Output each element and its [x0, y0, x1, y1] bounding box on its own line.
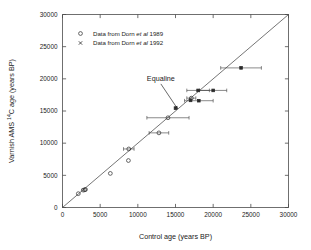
x-tick-label: 25000: [242, 211, 260, 218]
data-point-filled: [198, 99, 201, 102]
data-point-filled: [197, 89, 200, 92]
legend-marker-open-circle: [79, 32, 83, 36]
y-tick-label: 5000: [43, 172, 58, 179]
x-tick-label: 0: [61, 211, 65, 218]
x-tick-label: 10000: [129, 211, 147, 218]
x-axis-title: Control age (years BP): [139, 232, 212, 241]
y-axis-title-prefix: Varnish AMS: [7, 120, 16, 163]
y-tick-label: 25000: [40, 43, 58, 50]
equaline-leader-line: [161, 84, 178, 109]
x-tick-label: 5000: [93, 211, 108, 218]
legend-label-etal: et al: [136, 39, 148, 46]
y-tick-label: 20000: [40, 75, 58, 82]
data-point-open-circle: [127, 159, 131, 163]
legend-label-etal: et al: [136, 30, 148, 37]
x-tick-label: 15000: [167, 211, 185, 218]
data-point-open-circle: [108, 172, 112, 176]
legend-marker-cross: [79, 41, 82, 44]
y-tick-label: 30000: [40, 11, 58, 18]
legend-label-year: 1992: [148, 39, 164, 46]
legend-label-prefix: Data from Dorn: [93, 39, 136, 46]
chart-canvas: 0500010000150002000025000300000500010000…: [0, 0, 311, 250]
data-point-filled: [240, 67, 243, 70]
y-tick-label: 10000: [40, 139, 58, 146]
data-point-filled: [212, 89, 215, 92]
legend-label-year: 1989: [148, 30, 164, 37]
y-tick-label: 15000: [40, 107, 58, 114]
legend-label-prefix: Data from Dorn: [93, 30, 136, 37]
x-tick-label: 20000: [204, 211, 222, 218]
scatter-chart-figure: 0500010000150002000025000300000500010000…: [0, 0, 311, 250]
legend-label: Data from Dorn et al 1989: [93, 30, 164, 37]
series-2: [174, 66, 261, 109]
axes-group: 0500010000150002000025000300000500010000…: [40, 11, 298, 218]
data-point-filled: [189, 99, 192, 102]
equaline-annotation-label: Equaline: [147, 74, 175, 83]
chart-legend: Data from Dorn et al 1989Data from Dorn …: [79, 30, 164, 47]
chart-annotations: Equaline: [147, 74, 178, 109]
y-tick-label: 0: [54, 204, 58, 211]
y-axis-title: Varnish AMS 14C age (years BP): [6, 59, 16, 163]
y-axis-title-suffix: C age (years BP): [7, 59, 16, 114]
x-tick-label: 30000: [280, 211, 298, 218]
legend-label: Data from Dorn et al 1992: [93, 39, 164, 46]
